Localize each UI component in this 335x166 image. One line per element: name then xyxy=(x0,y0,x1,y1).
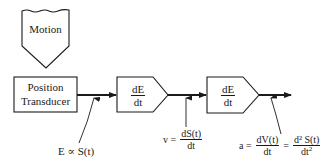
leader-acceleration xyxy=(271,98,281,134)
motion-label: Motion xyxy=(22,22,69,36)
acceleration-den2-base: dt xyxy=(301,146,309,157)
velocity-signal-label: v = dS(t) dt xyxy=(163,128,202,151)
acceleration-den2: dt2 xyxy=(300,146,313,157)
diff1-num: dE xyxy=(131,83,145,96)
transducer-line1: Position xyxy=(14,80,77,94)
acceleration-den2-sup: 2 xyxy=(309,145,313,153)
acceleration-lhs: a = xyxy=(239,140,252,151)
acceleration-signal-label: a = dV(t) dt = d² S(t) dt2 xyxy=(239,134,320,157)
motion-block-shape xyxy=(22,10,69,68)
velocity-den: dt xyxy=(186,140,196,151)
acceleration-num1: dV(t) xyxy=(256,134,280,146)
transducer-line2: Transducer xyxy=(14,94,77,108)
differentiator-2-label: dE dt xyxy=(214,83,242,108)
position-signal-text: E ∝ S(t) xyxy=(58,145,94,157)
acceleration-num2: d² S(t) xyxy=(293,134,321,146)
position-signal-label: E ∝ S(t) xyxy=(58,145,94,158)
velocity-lhs: v = xyxy=(163,134,176,145)
motion-text: Motion xyxy=(29,23,61,35)
diff1-den: dt xyxy=(133,96,144,108)
leader-position xyxy=(79,98,94,143)
velocity-num: dS(t) xyxy=(180,128,202,140)
transducer-label: Position Transducer xyxy=(14,80,77,108)
diff2-num: dE xyxy=(221,83,235,96)
acceleration-eq2: = xyxy=(283,140,289,151)
block-diagram: Motion Position Transducer dE dt dE dt E… xyxy=(0,0,335,166)
acceleration-den1: dt xyxy=(263,146,273,157)
differentiator-1-label: dE dt xyxy=(124,83,152,108)
diff2-den: dt xyxy=(223,96,234,108)
